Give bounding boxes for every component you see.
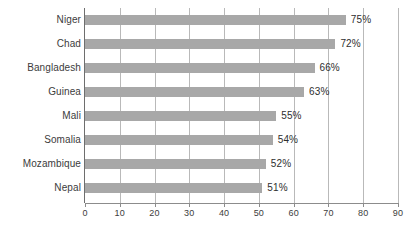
x-tick-mark (328, 203, 329, 207)
x-tick-label: 30 (184, 208, 194, 218)
x-tick-mark (224, 203, 225, 207)
x-tick-mark (85, 203, 86, 207)
x-tick-label: 60 (288, 208, 298, 218)
x-tick-mark (155, 203, 156, 207)
category-label: Niger (0, 8, 81, 32)
bar (85, 15, 346, 25)
x-tick-mark (120, 203, 121, 207)
bar (85, 159, 266, 169)
x-tick-mark (189, 203, 190, 207)
bar-row: Mozambique52% (0, 152, 415, 176)
x-tick-mark (363, 203, 364, 207)
bar-row: Niger75% (0, 8, 415, 32)
category-label: Guinea (0, 80, 81, 104)
bar-value-label: 55% (281, 104, 301, 128)
bar-chart: Niger75%Chad72%Bangladesh66%Guinea63%Mal… (0, 0, 415, 237)
x-tick-label: 10 (115, 208, 125, 218)
category-label: Chad (0, 32, 81, 56)
x-tick-mark (294, 203, 295, 207)
bar-row: Bangladesh66% (0, 56, 415, 80)
x-tick-label: 70 (323, 208, 333, 218)
x-tick-label: 0 (82, 208, 87, 218)
category-label: Mozambique (0, 152, 81, 176)
x-tick-mark (259, 203, 260, 207)
x-tick-label: 20 (149, 208, 159, 218)
x-tick-label: 50 (254, 208, 264, 218)
bar-value-label: 52% (271, 152, 291, 176)
bar-row: Nepal51% (0, 176, 415, 200)
bar-value-label: 75% (351, 8, 371, 32)
x-tick-label: 80 (358, 208, 368, 218)
bar (85, 183, 262, 193)
bar-value-label: 54% (278, 128, 298, 152)
bar-value-label: 72% (340, 32, 360, 56)
bar-row: Mali55% (0, 104, 415, 128)
x-axis-line (85, 203, 398, 204)
bar (85, 39, 335, 49)
category-label: Somalia (0, 128, 81, 152)
category-label: Bangladesh (0, 56, 81, 80)
bar-value-label: 66% (320, 56, 340, 80)
bar (85, 135, 273, 145)
bar-value-label: 51% (267, 176, 287, 200)
x-tick-label: 40 (219, 208, 229, 218)
bar (85, 87, 304, 97)
bar (85, 111, 276, 121)
x-tick-label: 90 (393, 208, 403, 218)
bar-row: Guinea63% (0, 80, 415, 104)
category-label: Nepal (0, 176, 81, 200)
bar-row: Somalia54% (0, 128, 415, 152)
bar-value-label: 63% (309, 80, 329, 104)
x-tick-mark (398, 203, 399, 207)
category-label: Mali (0, 104, 81, 128)
bar-row: Chad72% (0, 32, 415, 56)
bar (85, 63, 315, 73)
